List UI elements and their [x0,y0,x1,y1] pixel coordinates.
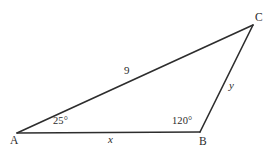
vertex-label-a: A [10,135,18,147]
side-length-label-bc: y [229,80,234,91]
side-length-label-ac: 9 [124,65,130,76]
vertex-label-b: B [199,136,207,148]
triangle-figure: A B C 9 y x 25° 120° [0,0,279,150]
triangle-outline [0,0,279,150]
side-length-label-ab: x [108,134,113,145]
vertex-label-c: C [255,12,263,24]
side-bc-line [200,25,253,132]
angle-label-b: 120° [172,116,192,127]
angle-label-a: 25° [53,116,68,127]
